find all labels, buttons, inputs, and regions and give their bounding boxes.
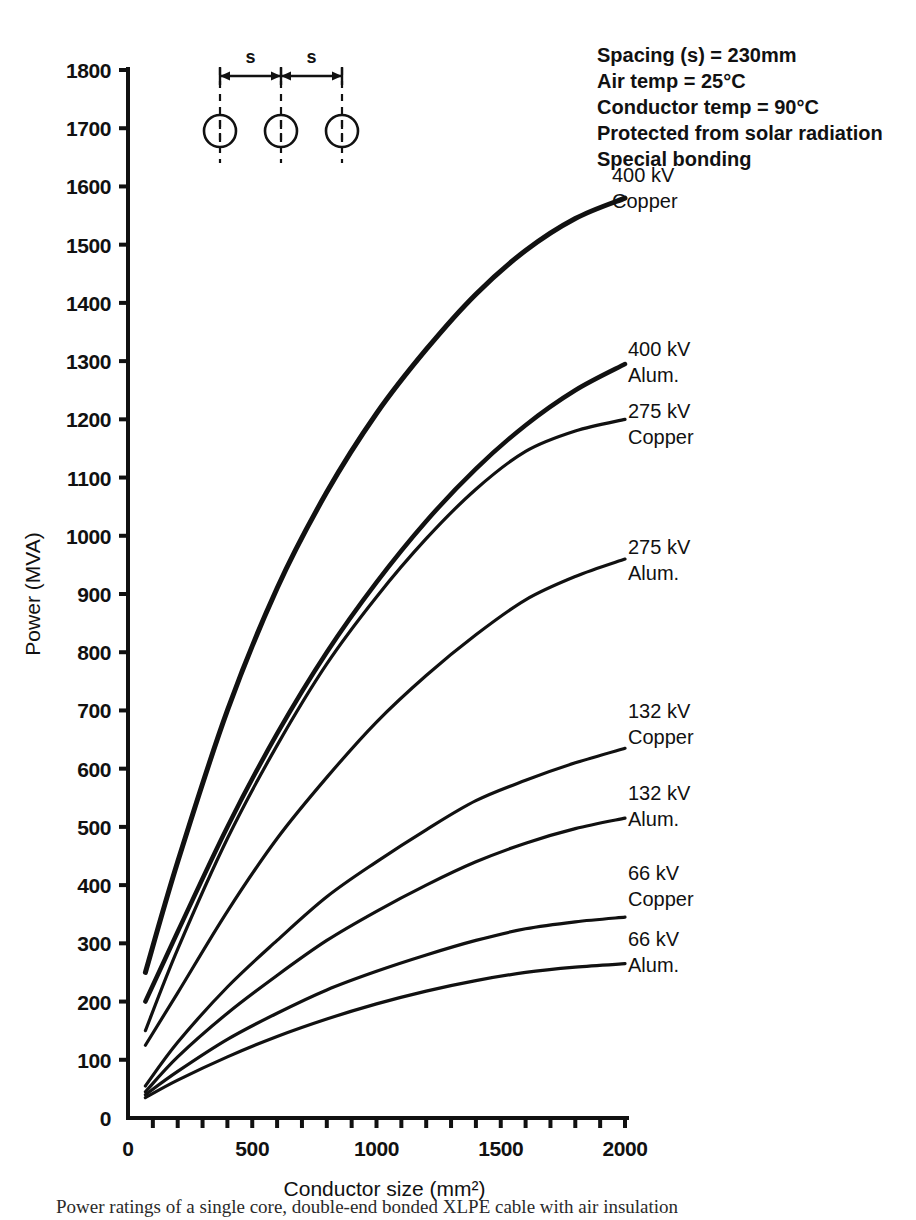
curve-label-line: 66 kV [628, 862, 680, 884]
annotation-line: Protected from solar radiation [597, 122, 883, 144]
curve-label-line: Alum. [628, 808, 679, 830]
curve-label-line: 400 kV [628, 338, 691, 360]
dimension-arrow-icon [332, 72, 342, 81]
chart-canvas: 0100200300400500600700800900100011001200… [0, 0, 916, 1220]
conductor-circle [326, 115, 358, 147]
curve-label: 66 kVCopper [628, 862, 694, 910]
y-tick-label: 0 [100, 1107, 111, 1130]
x-tick-label: 1000 [354, 1137, 399, 1160]
curve-label: 400 kVCopper [612, 164, 678, 212]
y-tick-label: 300 [77, 932, 111, 955]
annotation-line: Spacing (s) = 230mm [597, 44, 797, 66]
curve-label-line: 132 kV [628, 782, 691, 804]
spacing-label-left: s [245, 47, 255, 67]
y-tick-label: 200 [77, 991, 111, 1014]
y-tick-label: 1400 [66, 292, 111, 315]
y-tick-label: 600 [77, 758, 111, 781]
chart-curves [145, 198, 625, 1098]
conductor-circle [265, 115, 297, 147]
y-tick-label: 1100 [67, 467, 111, 490]
y-tick-label: 1800 [66, 59, 111, 82]
chart-figure: 0100200300400500600700800900100011001200… [0, 0, 916, 1220]
annotation-line: Special bonding [597, 148, 751, 170]
dimension-arrow-icon [281, 72, 291, 81]
dimension-arrow-icon [271, 72, 281, 81]
y-tick-label: 1300 [66, 350, 111, 373]
y-tick-label: 500 [77, 816, 111, 839]
x-tick-label: 2000 [602, 1137, 647, 1160]
annotation-line: Air temp = 25°C [597, 70, 746, 92]
spacing-label-right: s [306, 47, 316, 67]
y-tick-label: 800 [77, 641, 111, 664]
curve-label-line: Copper [628, 426, 694, 448]
curve-label-line: Alum. [628, 562, 679, 584]
series-line [145, 559, 625, 1045]
three-conductor-spacing-diagram: ss [204, 47, 358, 163]
curve-label: 132 kVCopper [628, 700, 694, 748]
curve-label-line: Alum. [628, 364, 679, 386]
series-line [145, 748, 625, 1086]
curve-label-line: 66 kV [628, 928, 680, 950]
curve-label: 275 kVAlum. [628, 536, 691, 584]
figure-caption: Power ratings of a single core, double-e… [56, 1196, 876, 1218]
y-tick-label: 900 [77, 583, 111, 606]
curve-label-line: Copper [628, 726, 694, 748]
y-tick-label: 1600 [66, 175, 111, 198]
annotation-block: Spacing (s) = 230mmAir temp = 25°CConduc… [597, 44, 883, 170]
y-tick-label: 700 [77, 699, 111, 722]
curve-label-line: 275 kV [628, 400, 691, 422]
curve-label: 66 kVAlum. [628, 928, 680, 976]
x-tick-label: 1500 [478, 1137, 523, 1160]
series-line [145, 419, 625, 1030]
curve-label-line: Copper [628, 888, 694, 910]
y-tick-label: 1000 [66, 525, 111, 548]
series-line [145, 917, 625, 1095]
y-tick-label: 1700 [66, 117, 111, 140]
curve-label: 132 kVAlum. [628, 782, 691, 830]
curve-label-line: Alum. [628, 954, 679, 976]
conductor-circle [204, 115, 236, 147]
y-tick-label: 1500 [66, 234, 111, 257]
curve-label: 275 kVCopper [628, 400, 694, 448]
curve-label-line: 275 kV [628, 536, 691, 558]
annotation-line: Conductor temp = 90°C [597, 96, 819, 118]
x-axis-ticks: 0500100015002000 [122, 1118, 647, 1160]
y-tick-label: 400 [77, 874, 111, 897]
y-axis-ticks: 0100200300400500600700800900100011001200… [66, 59, 128, 1130]
y-tick-label: 100 [77, 1049, 111, 1072]
y-tick-label: 1200 [66, 408, 111, 431]
curve-label-line: 132 kV [628, 700, 691, 722]
y-axis-title: Power (MVA) [21, 532, 44, 655]
curve-label-line: Copper [612, 190, 678, 212]
dimension-arrow-icon [220, 72, 230, 81]
curve-label: 400 kVAlum. [628, 338, 691, 386]
x-tick-label: 0 [122, 1137, 133, 1160]
series-line [145, 964, 625, 1098]
x-tick-label: 500 [235, 1137, 269, 1160]
